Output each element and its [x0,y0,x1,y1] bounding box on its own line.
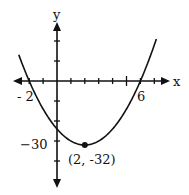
y-axis-up-arrow-icon [53,22,61,31]
x-axis-label: x [173,74,181,89]
x-axis-left-arrow-icon [13,77,22,85]
vertex-label: (2, -32) [68,152,116,167]
y-tick-label-neg30: −30 [20,137,47,152]
parabola-graph: x y - 2 6 −30 (2, -32) [0,0,189,195]
x-tick-label-neg2: - 2 [17,89,34,104]
y-axis-label: y [52,7,61,22]
y-axis-down-arrow-icon [53,179,61,188]
tick-marks [29,41,154,161]
x-axis-right-arrow-icon [161,77,170,85]
parabola-curve [19,39,157,145]
vertex-point [82,142,88,148]
x-tick-label-6: 6 [137,89,145,104]
